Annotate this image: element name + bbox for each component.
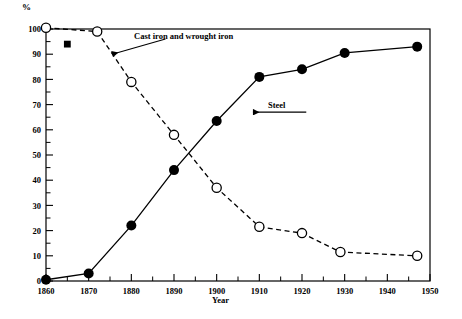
svg-text:1930: 1930 <box>336 286 353 296</box>
annotation-steel-label: Steel <box>268 100 285 110</box>
svg-text:1860: 1860 <box>38 286 55 296</box>
svg-text:60: 60 <box>33 125 42 135</box>
plot-frame <box>46 29 430 281</box>
svg-text:50: 50 <box>33 150 42 160</box>
svg-text:1950: 1950 <box>422 286 439 296</box>
svg-text:1880: 1880 <box>123 286 140 296</box>
chart-plot: 0102030405060708090100 18601870188018901… <box>0 0 462 319</box>
svg-text:100: 100 <box>28 24 41 34</box>
svg-text:0: 0 <box>37 276 41 286</box>
svg-text:1910: 1910 <box>251 286 268 296</box>
svg-text:1940: 1940 <box>379 286 396 296</box>
svg-text:80: 80 <box>33 75 42 85</box>
y-axis-ticks <box>46 29 53 281</box>
svg-text:20: 20 <box>33 226 42 236</box>
svg-text:30: 30 <box>33 201 42 211</box>
svg-text:1870: 1870 <box>80 286 97 296</box>
chart-container: % 0102030405060708090100 186018701880189… <box>0 0 462 319</box>
svg-text:90: 90 <box>33 49 42 59</box>
x-axis-tick-labels: 1860187018801890190019101920193019401950 <box>38 286 439 296</box>
svg-text:1920: 1920 <box>294 286 311 296</box>
svg-text:1890: 1890 <box>166 286 183 296</box>
annotation-cast-iron-label: Cast iron and wrought iron <box>134 31 233 41</box>
svg-text:70: 70 <box>33 100 42 110</box>
svg-text:10: 10 <box>33 251 42 261</box>
series-lines <box>46 28 417 280</box>
x-axis-ticks <box>46 274 430 281</box>
y-axis-tick-labels: 0102030405060708090100 <box>28 24 41 286</box>
x-axis-title: Year <box>212 295 229 305</box>
extra-markers <box>64 41 71 48</box>
series-markers <box>41 23 422 285</box>
svg-text:40: 40 <box>33 175 42 185</box>
